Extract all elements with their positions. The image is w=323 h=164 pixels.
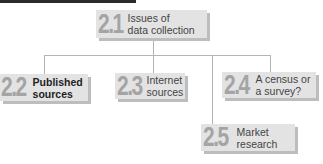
node-label: Issues of data collection — [128, 12, 195, 36]
node-2-3-internet-sources[interactable]: 2.3 Internet sources — [115, 73, 185, 99]
connector-to-2-4 — [270, 55, 271, 72]
header-bar — [0, 0, 136, 3]
connector-horizontal — [44, 55, 271, 56]
connector-to-2-2 — [44, 55, 45, 74]
node-label: Published sources — [33, 76, 83, 100]
section-number: 2.2 — [1, 74, 26, 101]
node-label: Market research — [237, 126, 278, 150]
section-number: 2.1 — [98, 11, 123, 38]
node-2-2-published-sources[interactable]: 2.2 Published sources — [0, 74, 88, 101]
connector-to-2-3 — [153, 55, 154, 73]
node-2-4-census-or-survey[interactable]: 2.4 A census or a survey? — [222, 72, 316, 98]
node-2-5-market-research[interactable]: 2.5 Market research — [201, 124, 295, 151]
connector-trunk — [153, 38, 154, 55]
node-2-1-issues-of-data-collection[interactable]: 2.1 Issues of data collection — [96, 10, 207, 38]
section-number: 2.3 — [117, 73, 142, 100]
node-label: Internet sources — [147, 74, 184, 98]
node-label: A census or a survey? — [256, 73, 311, 97]
connector-to-2-5 — [212, 55, 213, 124]
section-number: 2.5 — [203, 124, 228, 151]
section-number: 2.4 — [224, 72, 249, 99]
